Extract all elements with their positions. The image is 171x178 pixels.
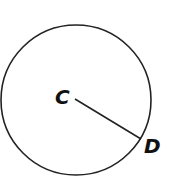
circle-diagram: C D [0,0,171,178]
point-label-d: D [144,134,161,158]
center-label-c: C [55,85,70,109]
radius-segment-cd [75,99,141,139]
